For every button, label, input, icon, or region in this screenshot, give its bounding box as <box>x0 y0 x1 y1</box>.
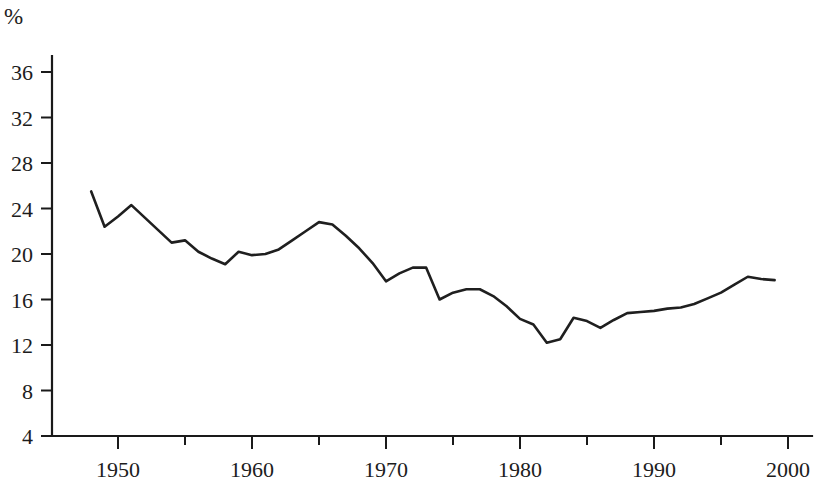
y-axis-tick-label: 8 <box>22 379 33 404</box>
x-axis-tick-label: 1980 <box>498 457 542 482</box>
y-axis-tick-label: 28 <box>11 151 33 176</box>
line-chart: % 4812162024283236 195019601970198019902… <box>0 0 824 490</box>
x-axis-tick-label: 1960 <box>230 457 274 482</box>
data-series-line <box>91 191 774 342</box>
x-axis-tick-label: 1950 <box>96 457 140 482</box>
y-axis-tick-label: 36 <box>11 60 33 85</box>
y-axis-tick-label: 4 <box>22 424 33 449</box>
axis-lines <box>52 56 812 436</box>
y-axis-tick-label: 20 <box>11 242 33 267</box>
x-axis-tick-label: 2000 <box>766 457 810 482</box>
y-axis-tick-label: 16 <box>11 288 33 313</box>
y-axis-tick-label: 32 <box>11 106 33 131</box>
x-axis-tick-group: 195019601970198019902000 <box>96 436 810 482</box>
x-axis-tick-label: 1990 <box>632 457 676 482</box>
x-axis-tick-label: 1970 <box>364 457 408 482</box>
chart-plot-area: 4812162024283236 19501960197019801990200… <box>0 0 824 490</box>
y-axis-tick-label: 24 <box>11 197 33 222</box>
y-axis-tick-label: 12 <box>11 333 33 358</box>
y-axis-tick-group: 4812162024283236 <box>11 60 52 449</box>
